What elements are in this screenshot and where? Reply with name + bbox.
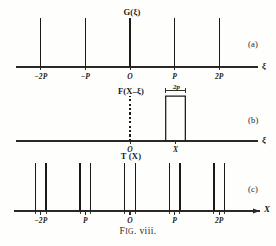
panel-a-tick-label-1: −P (81, 73, 90, 81)
panel-b-axis-label: ξ (262, 136, 266, 145)
panel-a-tick-label-2: O (127, 73, 133, 81)
panel-c-axis-label: X (264, 205, 270, 214)
panel-marker-a: (a) (248, 40, 258, 49)
rect-pulse-b (166, 96, 186, 141)
caption-rest: . viii. (134, 226, 157, 236)
axis-arrowhead-c (253, 208, 260, 213)
figure-container: G(ξ)ξ(a)−2P−POP2PF(X–ξ)2pξ(b)OXT (X)X(c)… (0, 0, 276, 246)
panel-a-axis-label: ξ (262, 62, 266, 71)
panel-c-tick-label-4: 2P (215, 217, 224, 225)
panel-marker-b: (b) (248, 116, 259, 125)
panel-marker-c: (c) (248, 185, 258, 194)
panel-c-tick-label-0: −2P (34, 217, 47, 225)
panel-c-tick-label-1: P (83, 217, 88, 225)
panel-a-tick-label-4: 2P (215, 73, 224, 81)
panel-b-pulse-width-label: 2p (173, 84, 180, 91)
panel-a-function-label: G(ξ) (124, 8, 141, 17)
panel-a-tick-label-3: P (172, 73, 177, 81)
panel-c-function-label: T (X) (121, 152, 141, 161)
panel-a-tick-label-0: −2P (34, 73, 47, 81)
panel-b-tick-label-1: X (173, 146, 178, 154)
panel-b-function-label: F(X–ξ) (118, 87, 144, 96)
figure-caption: FIG. viii. (120, 227, 157, 237)
panel-c-tick-label-3: P (172, 217, 177, 225)
figure-svg (0, 0, 276, 246)
panel-c-tick-label-2: O (127, 217, 133, 225)
